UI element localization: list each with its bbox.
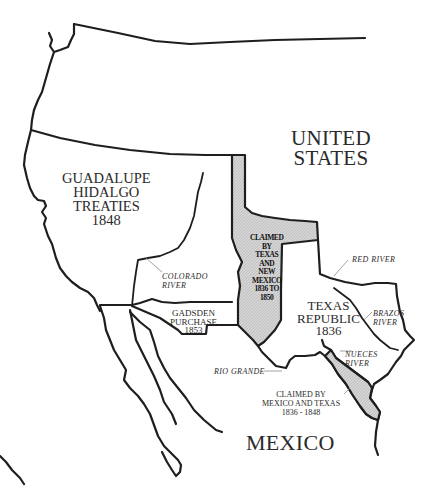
label-line: RIVER [373,318,404,327]
label-line: 1836 - 1848 [262,408,340,417]
northern-border [74,24,365,44]
parallel-42-border [31,130,232,155]
label-line: COLORADO [162,272,208,281]
label-texas-republic: TEXAS REPUBLIC 1836 [297,300,360,338]
label-claimed-mx-tx: CLAIMED BY MEXICO AND TEXAS 1836 - 1848 [262,390,340,417]
label-colorado-river: COLORADO RIVER [162,272,208,290]
label-mexico: MEXICO [246,432,335,454]
red-river-leader [334,260,348,276]
label-line: 1836 [297,325,360,338]
label-rio-grande: RIO GRANDE [214,367,265,376]
texas-border [318,240,414,455]
label-line: 1848 [62,213,151,227]
label-brazos-river: BRAZOS RIVER [373,309,404,327]
brazos-leader [364,312,372,320]
label-line: HIDALGO [62,185,151,199]
mexico-southwest-coast [0,456,24,484]
label-claimed-tx-nm: CLAIMED BY TEXAS AND NEW MEXICO 1836 TO … [250,234,283,302]
label-line: BRAZOS [373,309,404,318]
label-line: UNITED [291,128,371,148]
label-line: RIVER [345,359,378,368]
label-line: TREATIES [62,199,151,213]
pacific-coast-north [31,24,74,130]
label-line: 1850 [250,294,283,303]
map-canvas [0,0,444,491]
label-line: STATES [291,148,371,168]
label-guadalupe-hidalgo: GUADALUPE HIDALGO TREATIES 1848 [62,171,151,227]
label-line: NUECES [345,350,378,359]
label-united-states: UNITED STATES [291,128,371,168]
label-line: GUADALUPE [62,171,151,185]
label-line: MEXICO AND TEXAS [262,399,340,408]
label-line: 1853 [170,326,217,335]
label-red-river: RED RIVER [352,255,395,264]
label-gadsden-purchase: GADSDEN PURCHASE 1853 [170,309,217,335]
label-nueces-river: NUECES RIVER [345,350,378,368]
baja-west-coast [100,306,181,476]
label-line: RIVER [162,281,208,290]
us-mexico-border-1848 [100,299,232,305]
colorado-leader [146,258,162,272]
historical-map: UNITED STATES GUADALUPE HIDALGO TREATIES… [0,0,444,491]
label-line: CLAIMED BY [262,390,340,399]
